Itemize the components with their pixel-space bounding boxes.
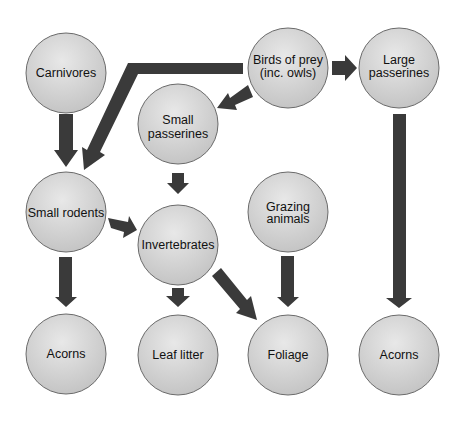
- node-label: Large: [383, 53, 415, 67]
- arrow-birds-of-prey-to-large-passerines: [332, 55, 357, 81]
- node-label: Foliage: [268, 348, 309, 362]
- node-foliage: Foliage: [248, 315, 328, 395]
- node-leaf-litter: Leaf litter: [138, 315, 218, 395]
- node-small-passerines: Small passerines: [138, 84, 218, 164]
- arrow-small-passerines-to-invertebrates: [167, 173, 189, 194]
- arrow-small-rodents-to-invertebrates: [108, 216, 137, 238]
- node-acorns-right: Acorns: [359, 315, 439, 395]
- node-label: animals: [266, 212, 309, 226]
- node-label: Acorns: [380, 348, 419, 362]
- node-label: (inc. owls): [260, 66, 316, 80]
- arrow-invertebrates-to-leaf-litter: [166, 288, 190, 307]
- arrows: [54, 55, 412, 320]
- node-label: Invertebrates: [142, 238, 215, 252]
- node-carnivores: Carnivores: [26, 33, 106, 113]
- node-large-passerines: Large passerines: [359, 28, 439, 108]
- node-label: Acorns: [47, 347, 86, 361]
- arrow-large-passerines-to-acorns: [386, 114, 412, 308]
- node-label: Carnivores: [36, 66, 96, 80]
- node-small-rodents: Small rodents: [26, 172, 106, 252]
- node-label: passerines: [369, 66, 429, 80]
- node-label: Small rodents: [28, 206, 104, 220]
- node-birds-of-prey: Birds of prey (inc. owls): [248, 28, 328, 108]
- node-label: Small: [162, 113, 193, 127]
- arrow-birds-of-prey-to-small-passerines: [217, 85, 253, 110]
- node-label: Leaf litter: [152, 348, 203, 362]
- nodes: Carnivores Birds of prey (inc. owls) Lar…: [26, 28, 439, 395]
- arrow-small-rodents-to-acorns: [55, 257, 77, 307]
- food-web-diagram: Carnivores Birds of prey (inc. owls) Lar…: [0, 0, 467, 422]
- node-label: Birds of prey: [253, 53, 324, 67]
- node-grazing-animals: Grazing animals: [248, 172, 328, 252]
- node-acorns-left: Acorns: [26, 314, 106, 394]
- arrow-grazing-animals-to-foliage: [277, 256, 299, 307]
- node-invertebrates: Invertebrates: [138, 205, 218, 285]
- arrow-invertebrates-to-foliage: [212, 268, 257, 320]
- node-label: passerines: [148, 127, 208, 141]
- arrow-carnivores-to-small-rodents: [54, 114, 78, 167]
